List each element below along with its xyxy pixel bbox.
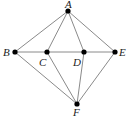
edge-a-e bbox=[68, 11, 115, 52]
node-e bbox=[112, 49, 117, 54]
edge-a-d bbox=[68, 11, 84, 52]
node-d bbox=[81, 49, 86, 54]
label-b: B bbox=[3, 46, 10, 58]
edge-a-b bbox=[15, 11, 68, 52]
label-c: C bbox=[39, 56, 47, 68]
node-b bbox=[12, 49, 17, 54]
edges-group bbox=[15, 11, 115, 104]
nodes-group bbox=[12, 8, 117, 106]
graph-diagram: A B C D E F bbox=[0, 0, 129, 117]
edge-a-c bbox=[47, 11, 68, 52]
node-c bbox=[44, 49, 49, 54]
label-f: F bbox=[72, 106, 80, 117]
label-d: D bbox=[72, 56, 81, 68]
label-a: A bbox=[64, 0, 72, 10]
label-e: E bbox=[118, 46, 126, 58]
